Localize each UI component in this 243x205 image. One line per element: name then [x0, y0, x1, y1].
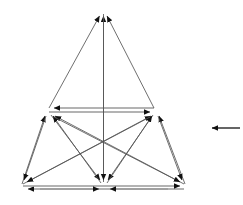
edge-midright-to-apex — [107, 16, 154, 108]
edge-midright-to-bottomright — [158, 116, 182, 180]
diagram-canvas — [0, 0, 243, 205]
edge-bottommiddle-to-midleft — [53, 116, 101, 183]
edge-midleft-to-bottomright — [54, 117, 180, 182]
edge-midleft-to-apex — [49, 16, 100, 108]
edge-midleft-to-bottomleft — [24, 116, 46, 180]
edge-bottomright-to-midright — [159, 116, 185, 184]
edge-bottommiddle-to-midright — [107, 116, 152, 183]
edge-midright-to-bottomleft — [27, 117, 150, 182]
directed-graph-svg — [0, 0, 243, 205]
diagonal-edges — [22, 14, 185, 184]
